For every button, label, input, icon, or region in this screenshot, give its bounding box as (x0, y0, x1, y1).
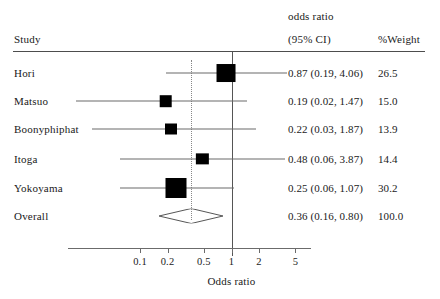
effect-size-marker (166, 178, 187, 198)
axis-tick-label: 0.1 (133, 256, 147, 267)
axis-tick (204, 248, 205, 253)
header-rule (13, 51, 425, 52)
overall-estimate-value: 0.36 (0.16, 0.80) (288, 210, 363, 222)
weight-value: 26.5 (378, 67, 398, 79)
study-label: Matsuo (14, 95, 48, 107)
axis-tick (140, 248, 141, 253)
pooled-effect-line (191, 60, 192, 220)
column-header-study: Study (14, 33, 41, 45)
axis-tick (168, 248, 169, 253)
estimate-value: 0.22 (0.03, 1.87) (288, 123, 363, 135)
study-label: Yokoyama (14, 182, 63, 194)
column-header-confidence-interval: (95% CI) (288, 33, 331, 45)
forest-plot: Study odds ratio (95% CI) %Weight Hori0.… (0, 0, 440, 299)
effect-size-marker (216, 64, 235, 82)
study-label: Itoga (14, 153, 38, 165)
overall-effect-diamond (159, 209, 223, 224)
estimate-value: 0.25 (0.06, 1.07) (288, 182, 363, 194)
overall-weight-value: 100.0 (378, 210, 403, 222)
estimate-value: 0.19 (0.02, 1.47) (288, 95, 363, 107)
estimate-value: 0.87 (0.19, 4.06) (288, 67, 363, 79)
effect-size-marker (165, 124, 177, 135)
null-effect-line (232, 52, 233, 256)
axis-tick-label: 5 (293, 256, 298, 267)
column-header-odds-ratio: odds ratio (288, 10, 334, 22)
axis-tick-label: 2 (256, 256, 261, 267)
column-header-weight: %Weight (378, 33, 420, 45)
axis-tick (259, 248, 260, 253)
axis-tick-label: 0.5 (197, 256, 211, 267)
axis-tick-label: 1 (229, 256, 234, 267)
effect-size-marker (196, 153, 208, 164)
axis-tick-label: 0.2 (161, 256, 175, 267)
weight-value: 14.4 (378, 153, 398, 165)
effect-size-marker (159, 95, 172, 107)
axis-tick (295, 248, 296, 253)
study-label: Boonyphiphat (14, 123, 79, 135)
weight-value: 30.2 (378, 182, 398, 194)
weight-value: 15.0 (378, 95, 398, 107)
overall-label: Overall (14, 210, 48, 222)
study-label: Hori (14, 67, 35, 79)
axis-title: Odds ratio (207, 275, 255, 287)
weight-value: 13.9 (378, 123, 398, 135)
axis-tick (232, 248, 233, 253)
estimate-value: 0.48 (0.06, 3.87) (288, 153, 363, 165)
axis-line (68, 248, 311, 249)
